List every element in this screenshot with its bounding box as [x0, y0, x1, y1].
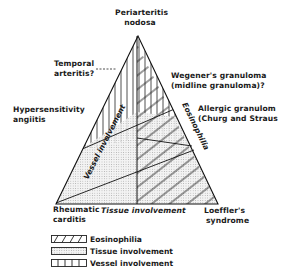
wegener-line1: Wegener's granuloma: [171, 71, 267, 81]
triangle-diagram: Vessel involvement Eosinophilia: [0, 0, 287, 278]
hypersensitivity-line1: Hypersensitivity: [13, 105, 85, 115]
label-tissue-axis: Tissue involvement: [101, 206, 186, 216]
label-hypersensitivity: Hypersensitivity angiitis: [13, 105, 85, 125]
loeffler-line2: syndrome: [204, 216, 249, 226]
allergic-line1: Allergic granulom: [198, 104, 278, 114]
rheumatic-line2: carditis: [53, 215, 99, 225]
hypersensitivity-line2: angiitis: [13, 115, 85, 125]
label-allergic-granuloma: Allergic granulom (Churg and Straus: [198, 104, 278, 124]
rheumatic-line1: Rheumatic: [53, 205, 99, 215]
vertical-lines-swatch-icon: [51, 259, 87, 267]
label-loeffler: Loeffler's syndrome: [204, 206, 249, 226]
temporal-line2: arteritis?: [54, 69, 94, 79]
periarteritis-line2: nodosa: [115, 18, 165, 28]
legend-item-vessel: Vessel involvement: [51, 258, 173, 268]
dotted-shade-swatch-icon: [51, 247, 87, 255]
legend-label-eosinophilia: Eosinophilia: [90, 235, 142, 244]
legend-label-vessel: Vessel involvement: [90, 259, 173, 268]
label-rheumatic-carditis: Rheumatic carditis: [53, 205, 99, 225]
allergic-line2: (Churg and Straus: [198, 114, 278, 124]
periarteritis-line1: Periarteritis: [115, 8, 165, 18]
temporal-line1: Temporal: [54, 59, 94, 69]
legend-item-eosinophilia: Eosinophilia: [51, 234, 142, 244]
legend-item-tissue: Tissue involvement: [51, 246, 173, 256]
legend-label-tissue: Tissue involvement: [90, 247, 173, 256]
diagonal-hatch-swatch-icon: [51, 235, 87, 243]
loeffler-line1: Loeffler's: [204, 206, 249, 216]
label-wegener: Wegener's granuloma (midline granuloma)?: [171, 71, 267, 91]
label-periarteritis: Periarteritis nodosa: [115, 8, 165, 28]
label-temporal-arteritis: Temporal arteritis?: [54, 59, 94, 79]
wegener-line2: (midline granuloma)?: [171, 81, 267, 91]
